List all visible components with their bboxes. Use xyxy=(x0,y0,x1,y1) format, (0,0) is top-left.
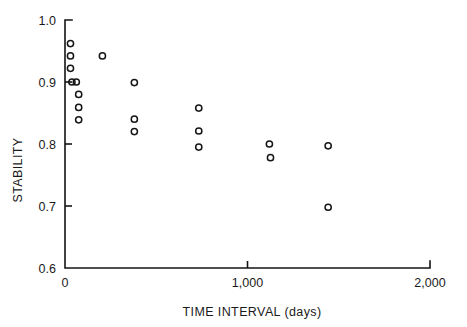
data-point xyxy=(76,117,82,123)
data-point xyxy=(131,80,137,86)
data-point-group xyxy=(67,40,331,210)
data-point xyxy=(131,129,137,135)
data-point xyxy=(76,91,82,97)
data-point xyxy=(325,143,331,149)
y-axis-tick-labels: 0.60.70.80.91.0 xyxy=(39,14,56,276)
plot-area: 0.60.70.80.91.0 01,0002,000 STABILITY TI… xyxy=(0,0,467,327)
y-tick-label: 0.6 xyxy=(39,262,56,276)
x-tick-label: 1,000 xyxy=(232,276,263,290)
y-tick-label: 0.8 xyxy=(39,138,56,152)
y-tick-label: 0.9 xyxy=(39,76,56,90)
axis-lines xyxy=(65,20,430,268)
data-point xyxy=(131,116,137,122)
data-point xyxy=(67,53,73,59)
x-axis-title: TIME INTERVAL (days) xyxy=(182,305,321,319)
data-point xyxy=(99,53,105,59)
data-point xyxy=(196,128,202,134)
data-point xyxy=(67,65,73,71)
y-tick-label: 1.0 xyxy=(39,14,56,28)
y-axis-title: STABILITY xyxy=(11,137,25,202)
data-point xyxy=(73,79,79,85)
data-point xyxy=(325,204,331,210)
data-point xyxy=(196,144,202,150)
data-point xyxy=(266,141,272,147)
y-axis-ticks xyxy=(65,82,72,206)
y-tick-label: 0.7 xyxy=(39,200,56,214)
scatter-chart: 0.60.70.80.91.0 01,0002,000 STABILITY TI… xyxy=(0,0,467,327)
data-point xyxy=(196,105,202,111)
x-tick-label: 2,000 xyxy=(414,276,445,290)
data-point xyxy=(67,40,73,46)
data-point xyxy=(267,155,273,161)
x-tick-label: 0 xyxy=(62,276,69,290)
x-axis-tick-labels: 01,0002,000 xyxy=(62,276,446,290)
data-point xyxy=(76,104,82,110)
